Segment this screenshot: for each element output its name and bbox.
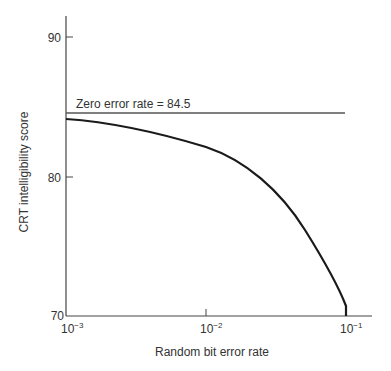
x-tick-label-1e-3: 10−3 bbox=[61, 321, 84, 336]
y-tick-label-90: 90 bbox=[48, 31, 62, 45]
chart: 90 80 70 10−3 10−2 10−1 Random bit error… bbox=[0, 0, 391, 371]
zero-error-rate-label: Zero error rate = 84.5 bbox=[76, 97, 191, 111]
y-tick-label-70: 70 bbox=[51, 309, 65, 323]
y-tick-label-80: 80 bbox=[48, 171, 62, 185]
x-tick-label-1e-2: 10−2 bbox=[200, 321, 223, 336]
x-axis-label: Random bit error rate bbox=[155, 345, 269, 359]
y-axis-label: CRT intelligibility score bbox=[17, 111, 31, 232]
intelligibility-curve bbox=[66, 119, 346, 316]
x-tick-label-1e-1: 10−1 bbox=[340, 321, 363, 336]
